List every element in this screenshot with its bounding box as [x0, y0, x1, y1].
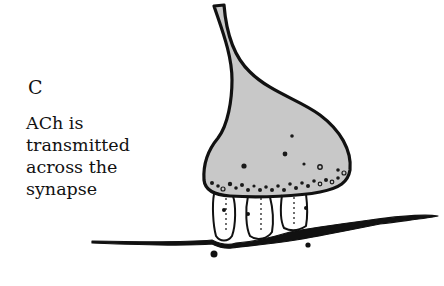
postsynaptic-membrane: [92, 215, 438, 248]
receptor-dot: [305, 242, 310, 247]
axon-terminal: [204, 5, 350, 197]
synapse-diagram: [0, 0, 444, 286]
receptor-dot: [211, 251, 218, 258]
